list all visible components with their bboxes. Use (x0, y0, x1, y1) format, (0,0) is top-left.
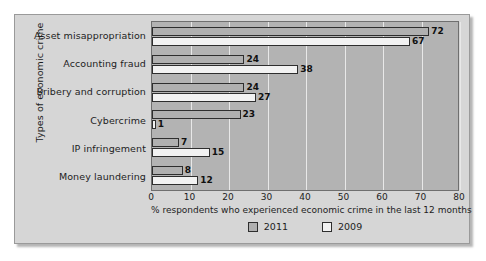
gridline (460, 22, 461, 190)
bar-row: 38 (152, 65, 458, 74)
bar-2009 (152, 65, 298, 74)
bar-2011 (152, 138, 179, 147)
x-axis-title: % respondents who experienced economic c… (151, 205, 459, 215)
bar-2009 (152, 176, 198, 185)
legend-swatch-icon (248, 222, 258, 232)
bar-value-label: 38 (300, 65, 313, 74)
bar-2009 (152, 37, 410, 46)
x-tick-label: 40 (299, 192, 310, 202)
bar-2009 (152, 148, 210, 157)
x-tick-label: 80 (453, 192, 464, 202)
bar-2009 (152, 93, 256, 102)
bar-group: 715 (152, 134, 458, 162)
bar-2011 (152, 27, 429, 36)
bar-row: 8 (152, 166, 458, 175)
bar-row: 12 (152, 176, 458, 185)
bar-value-label: 24 (246, 83, 259, 92)
bar-value-label: 12 (200, 176, 213, 185)
legend-item-2009[interactable]: 2009 (322, 221, 362, 232)
category-label: Asset misappropriation (25, 21, 150, 49)
bar-row: 15 (152, 148, 458, 157)
bar-value-label: 67 (412, 37, 425, 46)
category-label: IP infringement (25, 134, 150, 162)
chart-panel: Types of economic crime Asset misappropr… (14, 14, 470, 244)
category-axis: Asset misappropriationAccounting fraudBr… (25, 21, 150, 191)
bar-group: 231 (152, 106, 458, 134)
bar-group: 2438 (152, 51, 458, 79)
bar-row: 7 (152, 138, 458, 147)
bar-2011 (152, 83, 244, 92)
x-tick-label: 50 (338, 192, 349, 202)
category-label: Bribery and corruption (25, 78, 150, 106)
x-tick-label: 20 (222, 192, 233, 202)
bar-2011 (152, 55, 244, 64)
bar-2009 (152, 120, 156, 129)
bar-group: 7267 (152, 23, 458, 51)
chart-legend: 20112009 (151, 221, 459, 232)
category-label: Accounting fraud (25, 49, 150, 77)
bar-row: 24 (152, 55, 458, 64)
x-tick-label: 10 (184, 192, 195, 202)
x-tick-label: 0 (148, 192, 154, 202)
bar-value-label: 8 (185, 166, 191, 175)
bar-value-label: 24 (246, 55, 259, 64)
bar-value-label: 1 (158, 120, 164, 129)
legend-item-2011[interactable]: 2011 (248, 221, 288, 232)
bar-row: 23 (152, 110, 458, 119)
plot-area: 726724382427231715812 (151, 21, 459, 191)
bar-value-label: 23 (243, 110, 256, 119)
category-label: Cybercrime (25, 106, 150, 134)
bar-group: 812 (152, 161, 458, 189)
bar-value-label: 27 (258, 93, 271, 102)
bar-value-label: 72 (431, 27, 444, 36)
bar-row: 24 (152, 83, 458, 92)
bar-value-label: 15 (212, 148, 225, 157)
bar-group: 2427 (152, 78, 458, 106)
bar-2011 (152, 166, 183, 175)
bar-row: 67 (152, 37, 458, 46)
legend-swatch-icon (322, 222, 332, 232)
bar-value-label: 7 (181, 138, 187, 147)
x-tick-label: 30 (261, 192, 272, 202)
bar-row: 72 (152, 27, 458, 36)
x-tick-label: 70 (415, 192, 426, 202)
bars-layer: 726724382427231715812 (152, 22, 458, 190)
bar-2011 (152, 110, 241, 119)
bar-row: 1 (152, 120, 458, 129)
bar-row: 27 (152, 93, 458, 102)
category-label: Money laundering (25, 163, 150, 191)
legend-label: 2009 (338, 221, 362, 232)
legend-label: 2011 (264, 221, 288, 232)
x-tick-label: 60 (376, 192, 387, 202)
x-axis-ticks: 01020304050607080 (151, 192, 459, 204)
